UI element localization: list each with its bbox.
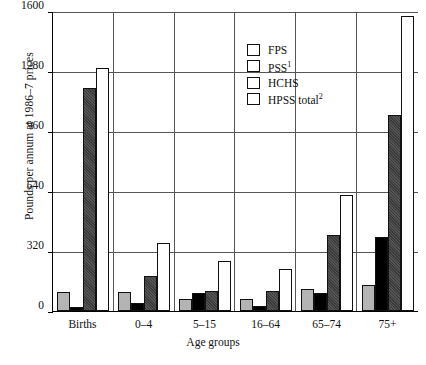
legend-swatch-pss	[247, 60, 260, 72]
bar-fps	[240, 299, 253, 311]
bar-hpss	[279, 269, 292, 311]
y-tick-label: 640	[0, 185, 44, 186]
y-tick-label: 960	[0, 125, 44, 126]
legend-label: HCHS	[268, 77, 299, 89]
bar-fps	[362, 285, 375, 311]
legend-item: FPS	[247, 44, 323, 56]
legend-item: HPSS total2	[247, 92, 323, 106]
bar-group	[175, 12, 236, 311]
bar-fps	[57, 292, 70, 311]
y-tick-label: 320	[0, 245, 44, 246]
bar-hpss	[218, 261, 231, 311]
bar-hchs	[205, 291, 218, 311]
y-tick-label: 1280	[0, 65, 44, 66]
bar-hchs	[83, 88, 96, 311]
bar-hchs	[144, 276, 157, 311]
legend-label: PSS1	[268, 60, 291, 74]
y-tick-mark	[48, 312, 53, 313]
legend-label: HPSS total2	[268, 92, 323, 106]
y-tick-label: 1600	[0, 5, 44, 6]
plot-area	[52, 12, 418, 312]
bar-hpss	[340, 195, 353, 311]
chart-container: Pounds per annum at 1986–7 prices 032064…	[0, 0, 426, 365]
bar-fps	[118, 292, 131, 311]
bar-hchs	[388, 115, 401, 311]
bar-hchs	[266, 291, 279, 311]
legend-item: PSS1	[247, 60, 323, 74]
bar-hpss	[401, 16, 414, 311]
x-axis-title: Age groups	[0, 336, 426, 348]
bar-group	[357, 12, 418, 311]
y-axis-title: Pounds per annum at 1986–7 prices	[23, 21, 35, 251]
bar-pss	[192, 293, 205, 311]
bar-hpss	[96, 68, 109, 311]
legend-footnote-marker: 1	[287, 60, 291, 69]
legend-footnote-marker: 2	[319, 92, 323, 101]
bar-pss	[253, 306, 266, 311]
legend-label: FPS	[268, 44, 287, 56]
bar-hpss	[157, 243, 170, 311]
legend-swatch-hpss	[247, 93, 260, 105]
legend-swatch-fps	[247, 44, 260, 56]
bar-pss	[70, 307, 83, 311]
bar-fps	[179, 299, 192, 311]
legend-item: HCHS	[247, 77, 323, 89]
bar-pss	[375, 237, 388, 311]
bar-groups	[53, 12, 418, 311]
bar-group	[53, 12, 114, 311]
bar-fps	[301, 289, 314, 311]
bar-group	[114, 12, 175, 311]
legend: FPSPSS1HCHSHPSS total2	[247, 44, 323, 106]
bar-hchs	[327, 235, 340, 311]
bar-pss	[131, 303, 144, 311]
legend-swatch-hchs	[247, 77, 260, 89]
y-tick-label: 0	[0, 305, 44, 306]
x-tick-label: 75+	[348, 318, 426, 330]
bar-pss	[314, 293, 327, 311]
